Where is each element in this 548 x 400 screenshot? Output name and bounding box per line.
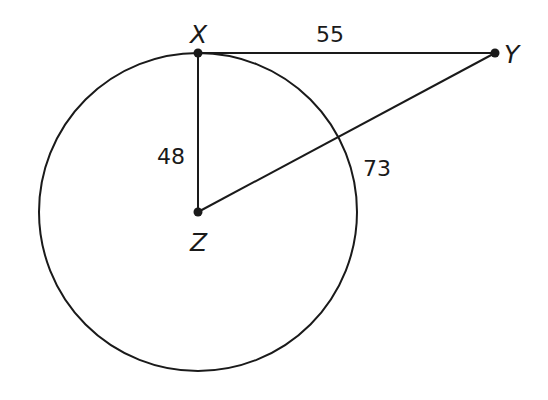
label-xy-length: 55 [316, 22, 344, 47]
point-x [194, 49, 203, 58]
label-x: X [188, 20, 208, 49]
diagram-svg: X Y Z 55 48 73 [0, 0, 548, 400]
geometry-diagram: X Y Z 55 48 73 [0, 0, 548, 400]
segment-zy [198, 53, 495, 212]
point-z [194, 208, 203, 217]
label-y: Y [504, 40, 521, 69]
point-y [491, 49, 500, 58]
label-zy-length: 73 [363, 156, 391, 181]
label-xz-length: 48 [157, 144, 185, 169]
label-z: Z [189, 228, 208, 257]
